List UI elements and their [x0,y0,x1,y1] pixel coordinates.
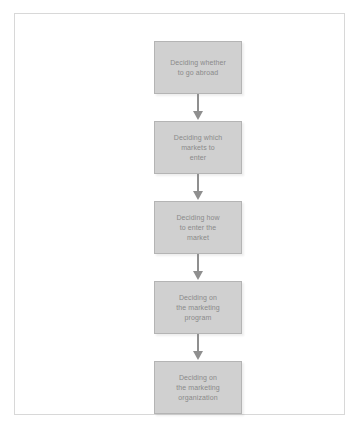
arrow-head-icon [193,271,203,280]
flow-step-3-label: Deciding how to enter the market [172,213,223,243]
flow-step-1: Deciding whether to go abroad [154,41,242,94]
arrow-head-icon [193,351,203,360]
flow-arrow-2-to-3 [154,174,242,201]
flow-step-5: Deciding on the marketing organization [154,361,242,414]
flow-step-2: Deciding which markets to enter [154,121,242,174]
flow-step-5-label: Deciding on the marketing organization [172,373,224,403]
arrow-shaft-icon [197,94,199,112]
arrow-shaft-icon [197,174,199,192]
arrow-shaft-icon [197,254,199,272]
flow-step-4: Deciding on the marketing program [154,281,242,334]
flow-step-4-label: Deciding on the marketing program [172,293,224,323]
flow-arrow-4-to-5 [154,334,242,361]
flow-arrow-1-to-2 [154,94,242,121]
flow-arrow-3-to-4 [154,254,242,281]
arrow-head-icon [193,191,203,200]
flow-step-3: Deciding how to enter the market [154,201,242,254]
flowchart: Deciding whether to go abroad Deciding w… [154,41,242,414]
flow-step-1-label: Deciding whether to go abroad [166,58,230,78]
arrow-shaft-icon [197,334,199,352]
flow-step-2-label: Deciding which markets to enter [170,133,226,163]
diagram-canvas: Deciding whether to go abroad Deciding w… [0,0,360,432]
arrow-head-icon [193,111,203,120]
diagram-frame: Deciding whether to go abroad Deciding w… [14,13,345,415]
